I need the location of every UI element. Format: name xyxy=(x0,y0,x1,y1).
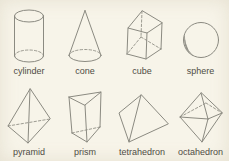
shapes-grid: cylinder cone xyxy=(0,0,229,161)
shape-cell-sphere: sphere xyxy=(172,0,229,80)
shape-label-tetrahedron: tetrahedron xyxy=(119,147,165,158)
geometric-solids-diagram: cylinder cone xyxy=(0,0,229,161)
shape-cell-pyramid: pyramid xyxy=(0,80,58,161)
tetrahedron-icon xyxy=(114,93,170,145)
shape-cell-cone: cone xyxy=(58,0,112,80)
shape-label-cone: cone xyxy=(75,66,95,77)
shape-label-cube: cube xyxy=(132,66,152,77)
cylinder-icon xyxy=(12,8,46,64)
shape-label-pyramid: pyramid xyxy=(13,147,45,158)
shape-cell-cylinder: cylinder xyxy=(0,0,58,80)
shape-label-prism: prism xyxy=(74,147,96,158)
cube-icon xyxy=(120,8,164,64)
shape-label-cylinder: cylinder xyxy=(13,66,44,77)
cone-icon xyxy=(67,8,103,64)
pyramid-icon xyxy=(6,87,52,145)
prism-icon xyxy=(65,89,105,145)
octahedron-icon xyxy=(178,91,224,145)
sphere-icon xyxy=(181,14,221,64)
shape-cell-prism: prism xyxy=(58,80,112,161)
shape-label-sphere: sphere xyxy=(187,66,215,77)
shape-cell-tetrahedron: tetrahedron xyxy=(112,80,172,161)
shape-cell-octahedron: octahedron xyxy=(172,80,229,161)
shape-cell-cube: cube xyxy=(112,0,172,80)
shape-label-octahedron: octahedron xyxy=(178,147,223,158)
